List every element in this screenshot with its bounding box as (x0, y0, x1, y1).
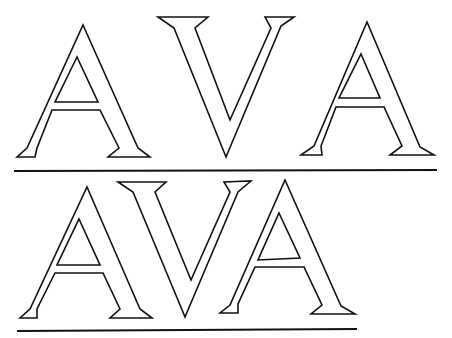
letter-a-2 (301, 22, 434, 155)
letter-a-1 (17, 25, 150, 157)
ava-kerning-diagram (0, 0, 452, 338)
baseline-rule-1 (14, 170, 437, 171)
letter-a-3 (20, 187, 152, 318)
row-2-glyphs (20, 180, 355, 318)
baseline-rule-2 (17, 329, 357, 331)
letter-v-1 (158, 17, 294, 157)
row-1-glyphs (17, 17, 434, 157)
letter-v-2 (118, 181, 251, 317)
letter-a-4 (220, 180, 355, 314)
